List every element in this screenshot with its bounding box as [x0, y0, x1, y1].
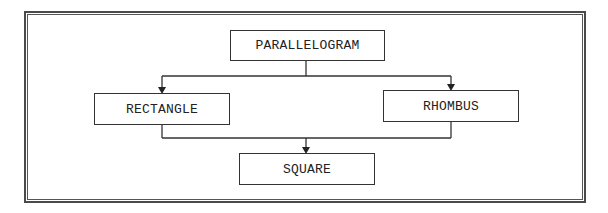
node-rhombus-label: RHOMBUS [423, 99, 479, 114]
node-square-label: SQUARE [283, 162, 331, 177]
node-parallelogram: PARALLELOGRAM [230, 30, 385, 61]
node-square: SQUARE [239, 153, 375, 185]
node-rectangle-label: RECTANGLE [126, 102, 198, 117]
node-parallelogram-label: PARALLELOGRAM [255, 38, 359, 53]
node-rhombus: RHOMBUS [383, 90, 519, 122]
node-rectangle: RECTANGLE [94, 93, 230, 125]
